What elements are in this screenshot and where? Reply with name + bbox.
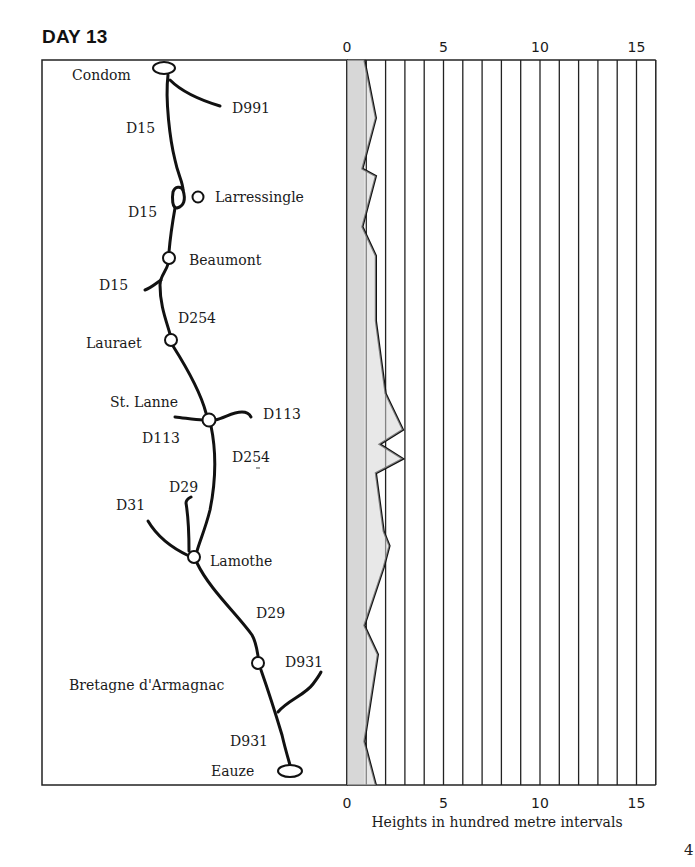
road-d29-south <box>197 563 258 656</box>
road-label: D29 <box>256 605 285 621</box>
bottom-tick-label: 10 <box>531 795 549 811</box>
road-d931-east <box>278 672 321 712</box>
road-d113-east <box>215 412 251 420</box>
top-tick-label: 5 <box>439 39 448 55</box>
road-label: D931 <box>285 654 323 670</box>
top-tick-label: 0 <box>343 39 352 55</box>
bretagne-marker <box>252 657 264 669</box>
eauze-marker <box>278 765 302 777</box>
route-figure: CondomLarressingleBeaumontLauraetSt. Lan… <box>0 0 695 867</box>
place-labels: CondomLarressingleBeaumontLauraetSt. Lan… <box>69 67 304 779</box>
road-label: D15 <box>128 204 157 220</box>
road-d31 <box>148 521 189 556</box>
bottom-tick-label: 5 <box>439 795 448 811</box>
road-label: D15 <box>99 277 128 293</box>
road-d113-west <box>175 417 203 420</box>
elevation-chart: 051015 051015 Heights in hundred metre i… <box>343 39 656 830</box>
lauraet-marker <box>165 334 177 346</box>
top-axis-ticks: 051015 <box>343 39 646 55</box>
place-label: Larressingle <box>215 189 304 205</box>
place-label: St. Lanne <box>110 394 178 410</box>
road-label: D254 <box>178 310 216 326</box>
road-label: D254 <box>232 449 270 465</box>
road-label: D29 <box>169 479 198 495</box>
road-larressingle-loop <box>172 187 184 208</box>
road-label: D113 <box>263 406 301 422</box>
place-label: Beaumont <box>189 252 262 268</box>
place-label: Condom <box>72 67 131 83</box>
place-label: Eauze <box>211 763 254 779</box>
road-d15-north <box>167 75 183 190</box>
bottom-axis-ticks: 051015 <box>343 795 646 811</box>
bottom-tick-label: 0 <box>343 795 352 811</box>
road-d991 <box>170 80 220 106</box>
road-label: D931 <box>230 733 268 749</box>
bottom-tick-label: 15 <box>628 795 646 811</box>
road-d254-lauraet <box>160 264 170 334</box>
place-label: Lamothe <box>210 553 272 569</box>
x-axis-title: Heights in hundred metre intervals <box>371 814 622 830</box>
page-number: 4 <box>684 841 694 859</box>
top-tick-label: 10 <box>531 39 549 55</box>
road-label: D991 <box>232 100 270 116</box>
place-label: Lauraet <box>86 335 142 351</box>
road-label: D113 <box>142 430 180 446</box>
larressingle-marker <box>193 192 204 203</box>
road-label: D15 <box>126 120 155 136</box>
stlanne-marker <box>203 414 216 427</box>
place-label: Bretagne d'Armagnac <box>69 677 225 693</box>
road-d931-south <box>261 670 290 765</box>
beaumont-marker <box>163 252 175 264</box>
road-d29-north <box>186 497 191 551</box>
condom-marker <box>153 62 175 74</box>
road-d254-lamothe <box>197 426 215 551</box>
lamothe-marker <box>188 551 200 563</box>
road-label: D31 <box>116 497 145 513</box>
road-d15-beaumont <box>169 208 175 252</box>
top-tick-label: 15 <box>628 39 646 55</box>
